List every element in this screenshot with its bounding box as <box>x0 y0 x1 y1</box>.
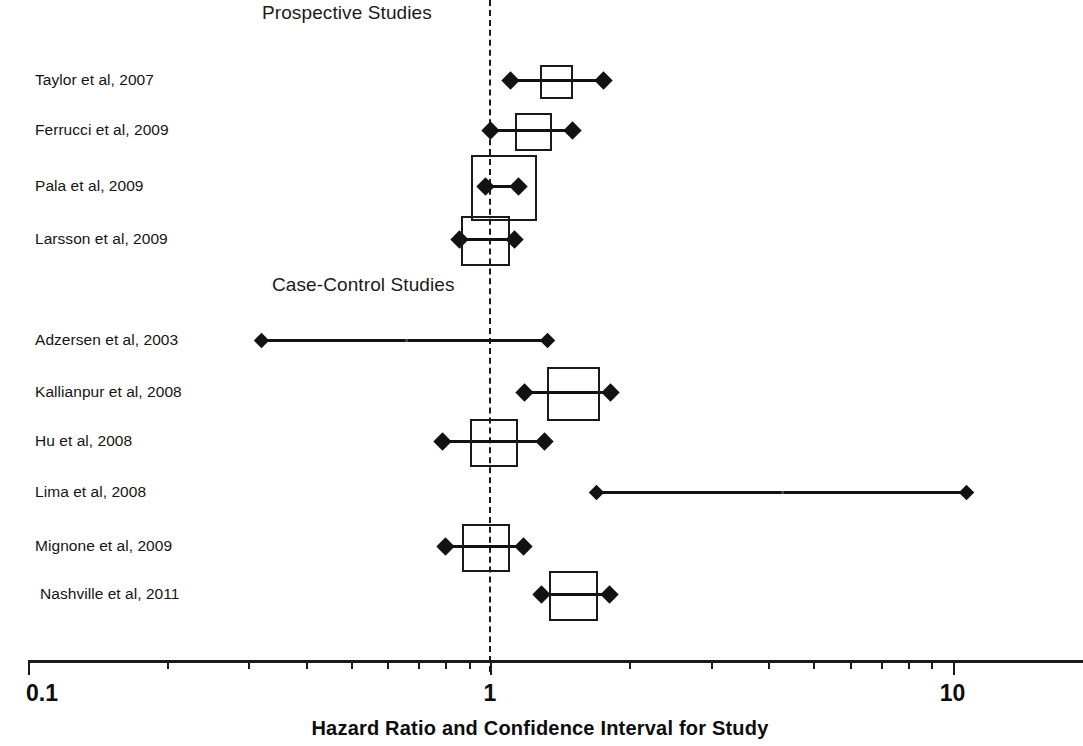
axis-tick-3 <box>711 660 713 669</box>
axis-tick-0.5 <box>351 660 353 669</box>
axis-tick-0.4 <box>306 660 308 669</box>
study-label-lima: Lima et al, 2008 <box>35 483 146 501</box>
study-weight-box <box>515 113 552 150</box>
axis-tick-0.3 <box>248 660 250 669</box>
study-label-nashville: Nashville et al, 2011 <box>40 585 179 603</box>
study-label-kallianpur: Kallianpur et al, 2008 <box>35 383 182 401</box>
axis-tick-9 <box>931 660 933 669</box>
ci-upper-cap-marker <box>514 537 532 555</box>
study-label-larsson: Larsson et al, 2009 <box>35 230 168 248</box>
study-weight-box <box>471 155 537 221</box>
study-weight-box <box>549 571 598 620</box>
study-weight-box <box>540 65 573 98</box>
study-weight-box <box>470 419 518 467</box>
axis-tick-7 <box>881 660 883 669</box>
study-label-adzersen: Adzersen et al, 2003 <box>35 331 178 349</box>
axis-tick-8 <box>908 660 910 669</box>
study-point-estimate-marker <box>405 339 408 342</box>
study-weight-box <box>547 367 601 421</box>
ci-lower-cap-marker <box>433 432 451 450</box>
axis-tick-0.1 <box>28 660 30 675</box>
ci-lower-cap-marker <box>436 537 454 555</box>
study-point-estimate-marker <box>781 491 784 494</box>
axis-tick-label-10: 10 <box>940 680 966 707</box>
axis-tick-label-0.1: 0.1 <box>26 680 58 707</box>
axis-tick-10 <box>953 660 955 675</box>
axis-tick-2 <box>629 660 631 669</box>
ci-lower-cap-marker <box>502 71 520 89</box>
axis-tick-0.8 <box>445 660 447 669</box>
axis-tick-0.2 <box>167 660 169 669</box>
axis-tick-0.7 <box>418 660 420 669</box>
axis-tick-1 <box>490 660 492 675</box>
ci-upper-cap-marker <box>601 383 619 401</box>
study-label-taylor: Taylor et al, 2007 <box>35 71 154 89</box>
study-label-hu: Hu et al, 2008 <box>35 432 132 450</box>
ci-upper-cap-marker <box>958 484 974 500</box>
ci-lower-cap-marker <box>516 383 534 401</box>
section-header-prospective: Prospective Studies <box>262 2 432 24</box>
ci-upper-cap-marker <box>594 71 612 89</box>
ci-lower-cap-marker <box>481 121 499 139</box>
study-weight-box <box>462 524 510 572</box>
axis-tick-0.9 <box>469 660 471 669</box>
axis-tick-label-1: 1 <box>484 680 497 707</box>
axis-tick-5 <box>813 660 815 669</box>
section-header-case-control: Case-Control Studies <box>272 274 455 296</box>
ci-upper-cap-marker <box>564 121 582 139</box>
axis-tick-4 <box>768 660 770 669</box>
study-label-mignone: Mignone et al, 2009 <box>35 537 172 555</box>
forest-plot-figure: Prospective Studies Case-Control Studies… <box>0 0 1083 746</box>
ci-upper-cap-marker <box>540 332 556 348</box>
ci-upper-cap-marker <box>600 585 618 603</box>
study-label-ferrucci: Ferrucci et al, 2009 <box>35 121 169 139</box>
axis-tick-0.6 <box>387 660 389 669</box>
x-axis-title: Hazard Ratio and Confidence Interval for… <box>311 717 768 740</box>
x-axis-line <box>28 660 1083 663</box>
ci-lower-cap-marker <box>589 484 605 500</box>
axis-tick-6 <box>850 660 852 669</box>
ci-lower-cap-marker <box>532 585 550 603</box>
ci-upper-cap-marker <box>535 432 553 450</box>
ci-lower-cap-marker <box>253 332 269 348</box>
study-label-pala: Pala et al, 2009 <box>35 177 144 195</box>
study-weight-box <box>461 216 510 265</box>
